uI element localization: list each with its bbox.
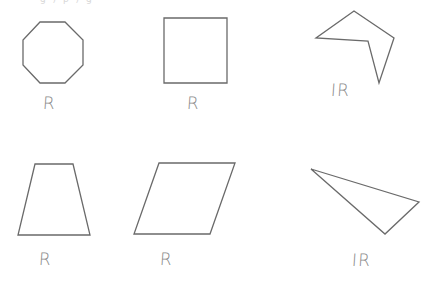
trapezoid-label: R xyxy=(38,251,52,268)
irregular-pentagon-label: IR xyxy=(330,82,350,99)
parallelogram-label: R xyxy=(159,251,173,268)
trapezoid-shape xyxy=(18,164,90,235)
scalene-triangle-shape xyxy=(311,169,419,234)
scalene-triangle-label: IR xyxy=(351,252,371,269)
parallelogram-shape xyxy=(134,163,235,234)
shapes-canvas xyxy=(0,0,446,281)
square-shape xyxy=(164,18,227,83)
square-label: R xyxy=(186,95,200,112)
irregular-pentagon-shape xyxy=(316,11,394,83)
octagon-label: R xyxy=(42,95,56,112)
octagon-shape xyxy=(23,22,83,83)
